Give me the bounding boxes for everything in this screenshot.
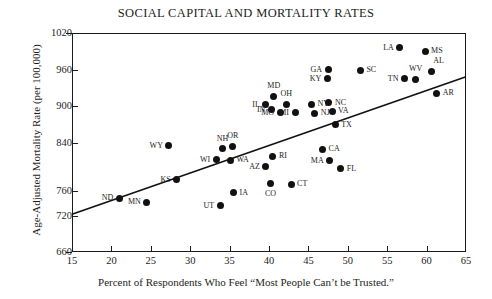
data-point-label: CA bbox=[329, 145, 340, 153]
data-point-label: MS bbox=[431, 47, 443, 55]
data-point-label: RI bbox=[279, 152, 287, 160]
data-point bbox=[116, 195, 123, 202]
y-tick-label: 900 bbox=[0, 101, 81, 112]
data-point-label: AR bbox=[443, 89, 454, 97]
data-point bbox=[213, 156, 220, 163]
data-point bbox=[292, 109, 299, 116]
data-point-label: MI bbox=[279, 109, 289, 117]
y-tick-mark bbox=[72, 216, 78, 217]
y-tick-mark bbox=[72, 106, 78, 107]
x-tick-mark bbox=[348, 246, 349, 252]
data-point-label: MO bbox=[261, 109, 274, 117]
data-point-label: KY bbox=[310, 75, 322, 83]
data-point bbox=[283, 101, 290, 108]
y-tick-label: 960 bbox=[0, 65, 81, 76]
data-point-label: FL bbox=[347, 165, 356, 173]
data-point-label: KS bbox=[161, 176, 171, 184]
data-point-label: ND bbox=[102, 194, 114, 202]
x-tick-label: 15 bbox=[52, 256, 92, 267]
data-point bbox=[428, 68, 435, 75]
data-point bbox=[357, 67, 364, 74]
data-point bbox=[227, 157, 234, 164]
data-point-label: MA bbox=[311, 157, 324, 165]
y-tick-mark bbox=[72, 143, 78, 144]
data-point bbox=[422, 48, 429, 55]
data-point bbox=[329, 108, 336, 115]
data-point-label: LA bbox=[383, 44, 394, 52]
x-tick-mark bbox=[151, 246, 152, 252]
data-point bbox=[308, 101, 315, 108]
x-tick-label: 40 bbox=[249, 256, 289, 267]
y-tick-label: 840 bbox=[0, 138, 81, 149]
data-point bbox=[288, 181, 295, 188]
data-point bbox=[143, 199, 150, 206]
y-tick-mark bbox=[66, 252, 72, 253]
data-point bbox=[270, 93, 277, 100]
data-point-label: AZ bbox=[249, 163, 260, 171]
data-point-label: TX bbox=[341, 121, 352, 129]
data-point bbox=[311, 110, 318, 117]
y-tick-mark bbox=[72, 70, 78, 71]
data-point-label: AL bbox=[433, 57, 444, 65]
data-point-label: VA bbox=[338, 107, 349, 115]
x-tick-mark bbox=[190, 246, 191, 252]
data-point bbox=[324, 75, 331, 82]
x-tick-mark bbox=[230, 246, 231, 252]
x-tick-label: 50 bbox=[328, 256, 368, 267]
data-point-label: OH bbox=[281, 90, 293, 98]
y-tick-label: 720 bbox=[0, 211, 81, 222]
x-tick-label: 35 bbox=[210, 256, 250, 267]
data-point-label: WA bbox=[236, 156, 248, 164]
data-point-label: WI bbox=[200, 156, 210, 164]
data-point-label: IA bbox=[240, 189, 248, 197]
y-tick-mark bbox=[66, 33, 72, 34]
x-tick-label: 20 bbox=[91, 256, 131, 267]
data-point bbox=[229, 143, 236, 150]
data-point-label: CT bbox=[297, 180, 307, 188]
x-tick-label: 45 bbox=[288, 256, 328, 267]
x-tick-label: 65 bbox=[446, 256, 486, 267]
data-point-label: TN bbox=[388, 75, 399, 83]
x-tick-label: 60 bbox=[407, 256, 447, 267]
y-tick-label: 760 bbox=[0, 186, 81, 197]
x-tick-mark bbox=[308, 246, 309, 252]
y-tick-mark bbox=[72, 191, 78, 192]
x-axis-label: Percent of Respondents Who Feel “Most Pe… bbox=[0, 276, 492, 288]
data-point bbox=[325, 66, 332, 73]
x-tick-mark bbox=[427, 246, 428, 252]
data-point-label: SC bbox=[366, 66, 376, 74]
data-point-label: WV bbox=[409, 65, 422, 73]
data-point-label: CO bbox=[265, 190, 276, 198]
x-tick-label: 25 bbox=[131, 256, 171, 267]
data-point-label: MN bbox=[128, 198, 141, 206]
data-point bbox=[412, 76, 419, 83]
scatter-chart-figure: SOCIAL CAPITAL AND MORTALITY RATES Age-A… bbox=[0, 0, 492, 299]
x-tick-mark bbox=[111, 246, 112, 252]
data-point-label: UT bbox=[203, 202, 214, 210]
chart-title: SOCIAL CAPITAL AND MORTALITY RATES bbox=[0, 6, 492, 21]
data-point-label: WY bbox=[150, 142, 163, 150]
data-point bbox=[319, 146, 326, 153]
data-point bbox=[217, 202, 224, 209]
data-point-label: OR bbox=[227, 132, 238, 140]
x-tick-mark bbox=[387, 246, 388, 252]
x-tick-label: 30 bbox=[170, 256, 210, 267]
data-point-label: GA bbox=[311, 66, 323, 74]
data-point-label: MD bbox=[267, 82, 280, 90]
x-tick-label: 55 bbox=[367, 256, 407, 267]
plot-area bbox=[72, 33, 466, 252]
x-tick-mark bbox=[269, 246, 270, 252]
